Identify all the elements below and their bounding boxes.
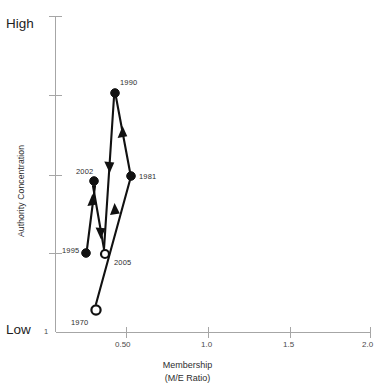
chart-container: High Low 1 0.50 1.0 1.5 2.0 1990 1981 20… [0, 0, 375, 390]
arrow-up-1981-1990 [118, 126, 128, 138]
y-axis-high-label: High [6, 16, 34, 31]
point-label-1990: 1990 [120, 78, 138, 87]
x-tick-label-1: 1.0 [201, 340, 212, 349]
point-label-2002: 2002 [76, 167, 94, 176]
y-axis-origin-label: 1 [44, 327, 48, 336]
x-axis-title: Membership [0, 360, 375, 370]
x-axis-subtitle: (M/E Ratio) [0, 373, 375, 383]
x-tick-label-2: 1.5 [283, 340, 294, 349]
marker-2005 [101, 250, 109, 258]
segment-1970-1981 [96, 180, 130, 304]
segment-2002-2005 [93, 186, 104, 249]
segment-1990-2005 [104, 97, 114, 249]
arrow-up-1970-1981 [110, 203, 120, 215]
x-tick-label-3: 2.0 [362, 340, 373, 349]
y-axis-title: Authority Concentration [16, 121, 26, 261]
marker-1990 [111, 89, 120, 98]
y-axis-low-label: Low [6, 322, 31, 337]
point-label-1970: 1970 [71, 318, 89, 327]
arrow-down-1990-2005 [104, 162, 114, 174]
chart-plot-area [0, 0, 375, 390]
marker-2002 [90, 177, 99, 186]
point-label-1981: 1981 [139, 172, 157, 181]
point-label-2005: 2005 [114, 258, 132, 267]
x-tick-label-0: 0.50 [115, 340, 131, 349]
point-label-1995: 1995 [62, 246, 80, 255]
marker-1995 [82, 249, 91, 258]
marker-1970 [91, 305, 100, 314]
marker-1981 [127, 172, 136, 181]
